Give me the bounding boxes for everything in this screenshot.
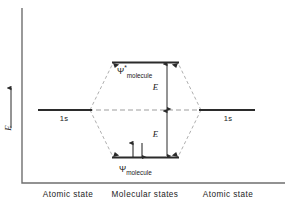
correlation-line-left-down bbox=[90, 110, 113, 157]
arrowhead-bonding-left bbox=[113, 152, 119, 157]
arrowhead-bonding-right bbox=[172, 152, 178, 157]
antibonding-orbital-label: Ψ*molecule bbox=[117, 64, 153, 78]
energy-split-upper-label: E bbox=[152, 82, 159, 92]
atomic-orbital-right-label: 1s bbox=[224, 114, 232, 123]
antibonding-star-symbol: * bbox=[124, 64, 127, 71]
atomic-level-left-group: 1s bbox=[38, 110, 92, 123]
column-label-atomic-right: Atomic state bbox=[203, 190, 253, 199]
antibonding-psi-symbol: Ψ bbox=[117, 66, 124, 76]
column-label-molecular: Molecular states bbox=[112, 190, 179, 199]
column-labels: Atomic state Molecular states Atomic sta… bbox=[43, 190, 253, 199]
bonding-orbital-label: Ψmolecule bbox=[119, 164, 152, 176]
correlation-line-right-down bbox=[178, 110, 201, 157]
mo-energy-diagram: E 1s 1s bbox=[0, 0, 291, 207]
atomic-level-right-group: 1s bbox=[199, 110, 255, 123]
energy-split-lower-label: E bbox=[152, 129, 159, 139]
antibonding-subscript: molecule bbox=[127, 72, 153, 79]
y-axis-label-group: E bbox=[3, 88, 13, 132]
bonding-subscript: molecule bbox=[126, 169, 152, 176]
column-label-atomic-left: Atomic state bbox=[43, 190, 93, 199]
bonding-level-group: Ψmolecule bbox=[112, 143, 179, 176]
correlation-line-right-up bbox=[178, 63, 201, 110]
y-axis-label: E bbox=[3, 125, 13, 132]
correlation-line-left-up bbox=[90, 63, 113, 110]
electron-pair-group bbox=[133, 143, 142, 157]
energy-measurement-upper: E bbox=[152, 64, 167, 109]
bonding-psi-symbol: Ψ bbox=[119, 164, 126, 174]
diagram-canvas: E 1s 1s bbox=[0, 0, 291, 207]
energy-measurement-lower: E bbox=[152, 111, 167, 156]
antibonding-level-group: Ψ*molecule bbox=[112, 63, 179, 79]
arrowhead-antibonding-right bbox=[172, 63, 178, 68]
atomic-orbital-left-label: 1s bbox=[60, 114, 68, 123]
